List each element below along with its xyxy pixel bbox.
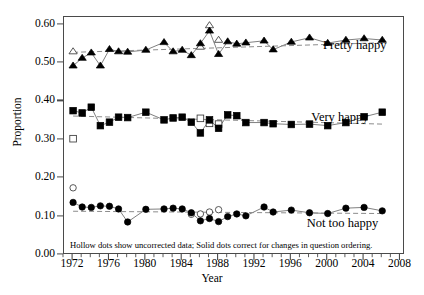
data-point [188,210,194,216]
data-point [270,209,276,215]
data-point [161,206,167,212]
data-point [170,115,177,122]
data-point [361,204,367,210]
data-point [106,119,113,126]
series-label-very-happy: Very happy [311,111,368,124]
x-tick-label: 1996 [279,258,302,270]
data-point [170,205,176,211]
data-point [270,120,277,127]
y-tick-label: 0.60 [35,18,55,30]
data-point [288,207,294,213]
data-point [379,208,385,214]
x-tick-label: 1980 [133,258,156,270]
data-point [161,117,168,124]
data-point [124,219,130,225]
data-point [88,204,94,210]
data-point [106,203,112,209]
y-tick-label: 0.50 [35,56,55,68]
data-point-hollow [206,209,212,215]
x-tick-label: 1976 [97,258,120,270]
data-point [215,125,222,132]
data-point-hollow [197,211,203,217]
data-point [261,204,267,210]
data-point [306,210,312,216]
data-point [197,130,204,137]
y-axis: 0.000.100.200.300.400.500.60 [0,0,63,295]
data-point-hollow [214,36,222,42]
data-point-hollow [70,185,76,191]
data-point [115,114,122,121]
x-tick-label: 1988 [206,258,229,270]
series-label-pretty-happy: Pretty happy [323,39,387,52]
data-point [115,206,121,212]
data-point [260,37,268,43]
data-point [160,39,168,45]
data-point [215,218,221,224]
data-point [305,34,313,40]
y-tick-label: 0.20 [35,171,55,183]
y-tick-label: 0.40 [35,95,55,107]
data-point [261,119,268,126]
data-point [343,205,349,211]
data-point [187,52,195,58]
chart-footnote: Hollow dots show uncorrected data; Solid… [70,241,372,250]
data-point-hollow [215,207,221,213]
series-label-not-too-happy: Not too happy [307,217,379,230]
y-tick-label: 0.10 [35,210,55,222]
data-point [242,39,250,45]
data-point [96,62,104,68]
data-point [78,54,86,60]
data-point [97,203,103,209]
data-point [233,112,240,119]
data-point [87,49,95,55]
data-point [105,45,113,51]
data-point [243,213,249,219]
data-point [243,119,250,126]
data-point [224,38,232,44]
data-point [70,107,77,114]
data-point [206,117,213,124]
data-point [214,50,222,56]
x-tick-label: 2000 [315,258,338,270]
x-tick-label: 1984 [170,258,193,270]
data-point [206,215,212,221]
x-tick-label: 2004 [352,258,375,270]
data-point-hollow [197,115,204,122]
data-point [79,204,85,210]
data-point [197,218,203,224]
data-point [143,109,150,116]
data-point [143,206,149,212]
data-point [234,211,240,217]
data-point-hollow [69,48,77,54]
x-tick-label: 1972 [61,258,84,270]
data-point [70,199,76,205]
data-point [224,112,231,119]
y-axis-title: Proportion [11,72,23,172]
data-point [179,114,186,121]
data-point [288,121,295,128]
data-point [179,206,185,212]
data-point [379,109,386,116]
y-tick-label: 0.30 [35,133,55,145]
x-tick-label: 2008 [388,258,411,270]
data-point [79,110,86,117]
data-point [124,114,131,121]
x-tick-label: 1992 [242,258,265,270]
data-point [224,213,230,219]
data-point [88,104,95,111]
data-point [97,122,104,129]
data-point-hollow [70,135,77,142]
data-point [188,119,195,126]
x-axis-title: Year [0,272,424,284]
data-point [196,40,204,46]
data-point [142,46,150,52]
happiness-trend-chart: 0.000.100.200.300.400.500.60 Proportion … [0,0,424,295]
